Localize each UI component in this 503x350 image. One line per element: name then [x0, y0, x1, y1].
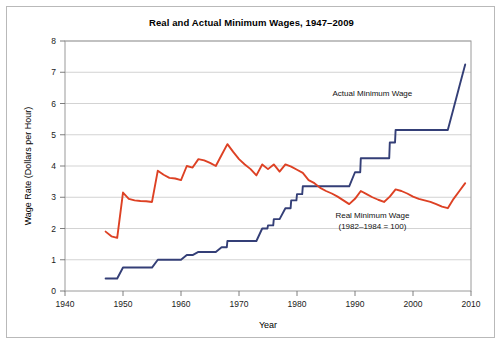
chart-plot-area: 0123456781940195019601970198019902000201…: [7, 7, 496, 339]
x-tick-label: 1960: [172, 299, 191, 309]
y-tick-label: 2: [51, 224, 56, 234]
x-tick-label: 2000: [404, 299, 423, 309]
y-tick-label: 4: [51, 161, 56, 171]
x-axis-title: Year: [259, 320, 277, 330]
x-tick-label: 1990: [346, 299, 365, 309]
y-axis-title: Wage Rate (Dollars per Hour): [23, 107, 33, 226]
annotation-actual-minimum-wage: Actual Minimum Wage: [333, 89, 413, 98]
y-tick-label: 5: [51, 130, 56, 140]
y-tick-label: 0: [51, 286, 56, 296]
x-tick-label: 1950: [114, 299, 133, 309]
y-tick-label: 8: [51, 36, 56, 46]
chart-figure: Real and Actual Minimum Wages, 1947–2009…: [6, 6, 495, 338]
annotation-real-minimum-wage: Real Minimum Wage: [335, 211, 409, 220]
series-line-real-minimum-wage: [106, 144, 466, 238]
x-tick-label: 1970: [230, 299, 249, 309]
y-tick-label: 3: [51, 192, 56, 202]
x-tick-label: 1980: [288, 299, 307, 309]
x-tick-label: 1940: [56, 299, 75, 309]
annotation-real-minimum-wage-base: (1982–1984 = 100): [338, 222, 406, 231]
y-tick-label: 7: [51, 67, 56, 77]
y-tick-label: 6: [51, 99, 56, 109]
x-tick-label: 2010: [462, 299, 481, 309]
y-tick-label: 1: [51, 255, 56, 265]
